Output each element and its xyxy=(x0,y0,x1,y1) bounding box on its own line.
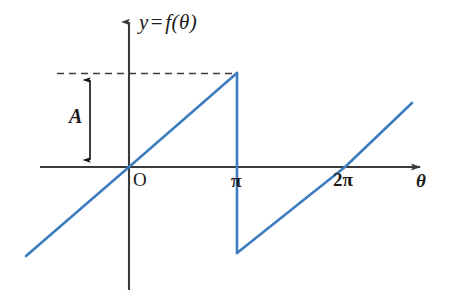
x-tick-label-pi: π xyxy=(231,171,241,190)
plot-canvas xyxy=(0,0,449,304)
x-axis-label-theta: θ xyxy=(416,171,426,190)
amplitude-label: A xyxy=(69,106,82,126)
curve-branch-2 xyxy=(237,103,412,253)
function-label: y=f(θ) xyxy=(139,12,197,33)
origin-label: O xyxy=(133,170,147,189)
function-label-y: y xyxy=(139,10,149,34)
curve-branch-1 xyxy=(26,73,237,256)
function-label-equals: = xyxy=(149,10,165,34)
function-label-expression: f(θ) xyxy=(165,10,197,34)
sawtooth-function-figure: y=f(θ) A O π 2π θ xyxy=(0,0,449,304)
x-tick-label-two-pi: 2π xyxy=(333,170,353,189)
